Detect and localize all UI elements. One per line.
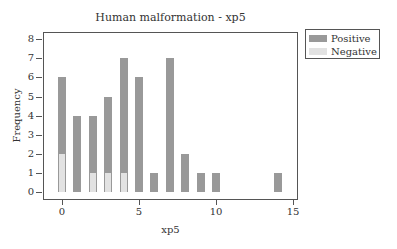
x-tick-label: 0 bbox=[47, 206, 77, 217]
x-tick bbox=[293, 200, 294, 205]
positive-swatch-icon bbox=[309, 35, 327, 42]
legend-label: Negative bbox=[331, 46, 377, 57]
negative-swatch-icon bbox=[309, 48, 327, 55]
y-tick-label: 1 bbox=[22, 168, 34, 178]
y-tick-label: 0 bbox=[22, 187, 34, 197]
x-tick bbox=[62, 200, 63, 205]
y-tick bbox=[36, 154, 42, 155]
y-tick-label: 8 bbox=[22, 34, 34, 44]
y-tick bbox=[36, 58, 42, 59]
legend-label: Positive bbox=[331, 33, 370, 44]
y-tick-label: 4 bbox=[22, 111, 34, 121]
bar-positive bbox=[181, 154, 189, 192]
x-tick-label: 15 bbox=[278, 206, 308, 217]
x-tick-label: 10 bbox=[201, 206, 231, 217]
legend-item-positive: Positive bbox=[309, 32, 370, 44]
y-tick-label: 3 bbox=[22, 130, 34, 140]
legend: Positive Negative bbox=[305, 29, 380, 59]
bar-negative bbox=[121, 173, 127, 192]
y-tick-label: 7 bbox=[22, 53, 34, 63]
bar-positive bbox=[212, 173, 220, 192]
y-tick-label: 6 bbox=[22, 72, 34, 82]
x-axis-title: xp5 bbox=[43, 224, 298, 235]
bar-negative bbox=[59, 154, 65, 192]
y-tick bbox=[36, 77, 42, 78]
x-tick bbox=[139, 200, 140, 205]
y-tick bbox=[36, 173, 42, 174]
chart-title: Human malformation - xp5 bbox=[43, 11, 298, 24]
y-tick-label: 2 bbox=[22, 149, 34, 159]
bar-negative bbox=[90, 173, 96, 192]
bar-positive bbox=[135, 77, 143, 192]
y-tick bbox=[36, 39, 42, 40]
bar-negative bbox=[105, 173, 111, 192]
y-tick bbox=[36, 135, 42, 136]
y-tick bbox=[36, 116, 42, 117]
legend-item-negative: Negative bbox=[309, 45, 377, 57]
y-tick bbox=[36, 192, 42, 193]
bar-positive bbox=[274, 173, 282, 192]
x-tick bbox=[216, 200, 217, 205]
y-axis-title: Frequency bbox=[11, 86, 22, 146]
bar-positive bbox=[150, 173, 158, 192]
y-tick bbox=[36, 97, 42, 98]
bar-positive bbox=[73, 116, 81, 192]
y-tick-label: 5 bbox=[22, 92, 34, 102]
x-tick-label: 5 bbox=[124, 206, 154, 217]
bar-positive bbox=[166, 58, 174, 192]
bar-positive bbox=[197, 173, 205, 192]
